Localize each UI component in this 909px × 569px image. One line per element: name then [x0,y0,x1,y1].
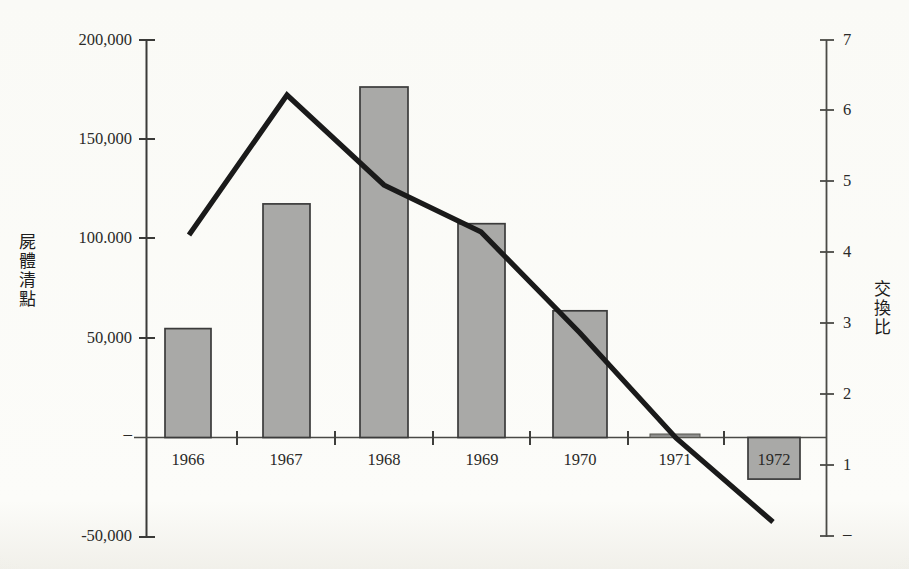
right-tick-label-3: 3 [843,313,851,333]
right-axis-title: 交換比 [872,280,890,337]
left-tick-label-50000: 50,000 [44,328,132,348]
right-tick-label-6: 6 [843,100,851,120]
x-category-label-1966: 1966 [148,450,228,470]
x-category-label-1972: 1972 [734,450,814,470]
left-tick-label-200000: 200,000 [44,30,132,50]
right-tick-label-7: 7 [843,30,851,50]
bar-1968 [360,87,408,438]
chart-figure: 屍體清點 交換比 200,000 150,000 100.000 50,000 … [0,0,909,569]
left-tick-label-100000: 100.000 [44,228,132,248]
bar-series [165,87,800,479]
chart-plot-area [0,0,909,569]
x-category-label-1967: 1967 [246,450,326,470]
bar-1967 [263,204,310,438]
right-tick-label-2: 2 [843,384,851,404]
right-tick-label-1: 1 [843,455,851,475]
right-tick-label-4: 4 [843,242,851,262]
left-axis-title: 屍體清點 [17,233,35,309]
left-tick-label-minus50000: -50,000 [40,526,132,546]
bar-1966 [165,329,211,438]
x-category-label-1969: 1969 [442,450,522,470]
x-category-label-1970: 1970 [540,450,620,470]
left-tick-label-zero: – [44,424,132,444]
right-tick-label-zero: – [843,524,852,544]
x-category-label-1968: 1968 [344,450,424,470]
x-category-label-1971: 1971 [635,450,715,470]
bar-1969 [458,224,505,438]
right-tick-label-5: 5 [843,171,851,191]
left-tick-label-150000: 150,000 [44,129,132,149]
